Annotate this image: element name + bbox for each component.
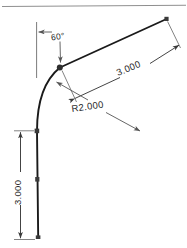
radius-leader-to-arc bbox=[57, 82, 89, 100]
point-tangent[interactable] bbox=[57, 64, 63, 70]
angled-dim-line-right bbox=[150, 45, 179, 63]
vertical-geometry-line[interactable] bbox=[37, 131, 38, 238]
angle-leader-to-vertex bbox=[60, 42, 61, 63]
angled-dim-line-left bbox=[75, 78, 120, 99]
sheet-border bbox=[2, 5, 186, 6]
angle-dimension-label: 60° bbox=[50, 30, 65, 42]
vertical-dimension-group[interactable]: 3.000 bbox=[12, 131, 36, 240]
angled-dimension-group[interactable]: 3.000 bbox=[62, 22, 181, 103]
radius-dimension-group[interactable]: R2.000 bbox=[57, 82, 141, 131]
angled-dim-extension-end bbox=[168, 22, 181, 49]
technical-drawing-svg: 60° 3.000 R2.000 bbox=[0, 0, 187, 248]
vertical-dimension-label: 3.000 bbox=[12, 180, 23, 205]
border-top-line bbox=[2, 5, 186, 6]
point-arc-start-bottom[interactable] bbox=[35, 129, 40, 134]
point-midline[interactable] bbox=[35, 177, 39, 182]
drawing-canvas: 60° 3.000 R2.000 bbox=[0, 0, 187, 248]
geometry-profile bbox=[37, 19, 167, 238]
sketch-points bbox=[35, 17, 169, 239]
radius-leader-tail bbox=[106, 113, 140, 132]
point-line-end-top[interactable] bbox=[164, 17, 168, 21]
tangent-arc[interactable] bbox=[37, 68, 60, 132]
angled-dimension-label: 3.000 bbox=[115, 58, 143, 78]
point-bottom-end[interactable] bbox=[36, 235, 41, 239]
angled-geometry-line[interactable] bbox=[60, 19, 167, 68]
